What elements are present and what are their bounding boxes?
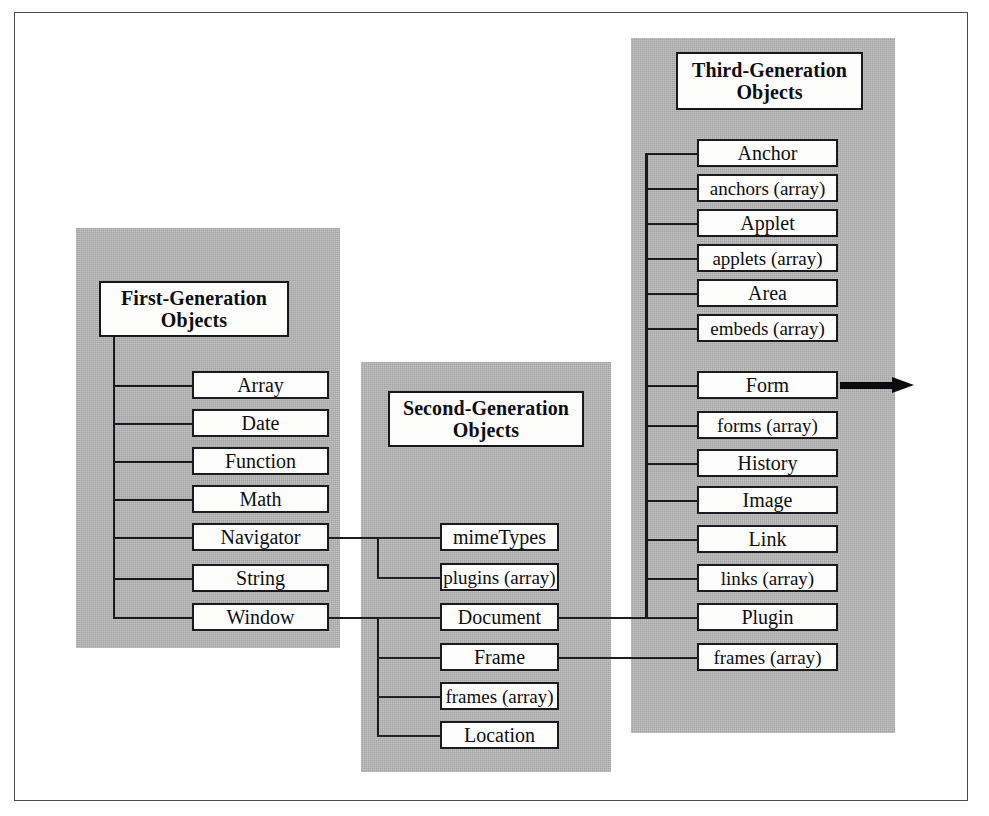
stub-first-4 bbox=[113, 537, 194, 539]
node-embeds-array[interactable]: embeds (array) bbox=[697, 314, 838, 342]
node-plugins-array[interactable]: plugins (array) bbox=[440, 563, 559, 591]
node-label: Date bbox=[242, 413, 280, 433]
node-history[interactable]: History bbox=[697, 449, 838, 477]
node-label: Navigator bbox=[221, 527, 301, 547]
arrow-head bbox=[892, 377, 914, 393]
node-document[interactable]: Document bbox=[440, 603, 559, 631]
node-link[interactable]: Link bbox=[697, 525, 838, 553]
stub-first-5 bbox=[113, 578, 194, 580]
stub-second-4 bbox=[377, 696, 442, 698]
node-label: Image bbox=[743, 490, 793, 510]
stub-third-5 bbox=[645, 328, 697, 330]
stub-first-2 bbox=[113, 461, 194, 463]
title-second-line1: Second-Generation bbox=[403, 397, 569, 419]
node-anchor[interactable]: Anchor bbox=[697, 139, 838, 167]
node-label: Link bbox=[749, 529, 787, 549]
stub-first-1 bbox=[113, 423, 194, 425]
stub-third-10 bbox=[645, 539, 697, 541]
node-label: Applet bbox=[740, 213, 794, 233]
node-label: Document bbox=[458, 607, 541, 627]
node-form[interactable]: Form bbox=[697, 371, 838, 399]
node-frames-array-third[interactable]: frames (array) bbox=[697, 643, 838, 671]
link-document-to-third bbox=[559, 617, 699, 619]
node-links-array[interactable]: links (array) bbox=[697, 564, 838, 592]
stub-third-11 bbox=[645, 578, 697, 580]
node-date[interactable]: Date bbox=[192, 409, 329, 437]
stub-third-9 bbox=[645, 500, 697, 502]
node-label: Window bbox=[226, 607, 294, 627]
node-label: Form bbox=[746, 375, 789, 395]
node-label: embeds (array) bbox=[710, 319, 824, 338]
node-function[interactable]: Function bbox=[192, 447, 329, 475]
stub-third-7 bbox=[645, 425, 697, 427]
node-label: Frame bbox=[474, 647, 525, 667]
node-label: mimeTypes bbox=[453, 527, 546, 547]
title-first-line2: Objects bbox=[161, 309, 227, 331]
node-label: String bbox=[236, 568, 285, 588]
stub-second-3 bbox=[377, 657, 442, 659]
stub-second-2 bbox=[377, 617, 442, 619]
node-string[interactable]: String bbox=[192, 564, 329, 592]
bus-first-generation bbox=[113, 337, 115, 619]
stub-third-1 bbox=[645, 188, 697, 190]
node-applets-array[interactable]: applets (array) bbox=[697, 244, 838, 272]
node-label: frames (array) bbox=[445, 687, 553, 706]
node-mimetypes[interactable]: mimeTypes bbox=[440, 523, 559, 551]
node-window[interactable]: Window bbox=[192, 603, 329, 631]
stub-second-5 bbox=[377, 735, 442, 737]
stub-third-6 bbox=[645, 385, 697, 387]
node-array[interactable]: Array bbox=[192, 371, 329, 399]
link-window-to-second bbox=[329, 617, 379, 619]
node-label: links (array) bbox=[721, 569, 814, 588]
title-second-generation: Second-Generation Objects bbox=[388, 391, 584, 447]
title-first-line1: First-Generation bbox=[121, 287, 267, 309]
node-label: Area bbox=[748, 283, 787, 303]
node-image[interactable]: Image bbox=[697, 486, 838, 514]
title-second-line2: Objects bbox=[453, 419, 519, 441]
stub-first-0 bbox=[113, 385, 194, 387]
stub-third-3 bbox=[645, 258, 697, 260]
title-third-line2: Objects bbox=[736, 81, 802, 103]
stub-second-0 bbox=[377, 537, 442, 539]
node-label: Location bbox=[464, 725, 535, 745]
node-label: History bbox=[738, 453, 798, 473]
node-anchors-array[interactable]: anchors (array) bbox=[697, 174, 838, 202]
stub-third-4 bbox=[645, 293, 697, 295]
node-plugin[interactable]: Plugin bbox=[697, 603, 838, 631]
link-frame-to-frames-array bbox=[559, 657, 699, 659]
node-area[interactable]: Area bbox=[697, 279, 838, 307]
title-first-generation: First-Generation Objects bbox=[99, 281, 289, 337]
node-frame[interactable]: Frame bbox=[440, 643, 559, 671]
node-math[interactable]: Math bbox=[192, 485, 329, 513]
form-continuation-arrow-icon bbox=[840, 377, 920, 393]
stub-first-3 bbox=[113, 499, 194, 501]
node-label: Array bbox=[237, 375, 284, 395]
stub-first-6 bbox=[113, 617, 194, 619]
node-label: Math bbox=[239, 489, 281, 509]
link-navigator-to-second bbox=[329, 537, 379, 539]
node-label: Function bbox=[225, 451, 296, 471]
node-label: anchors (array) bbox=[710, 179, 826, 198]
stub-third-0 bbox=[645, 153, 697, 155]
title-third-generation: Third-Generation Objects bbox=[676, 52, 863, 110]
node-label: frames (array) bbox=[713, 648, 821, 667]
node-applet[interactable]: Applet bbox=[697, 209, 838, 237]
stub-third-8 bbox=[645, 463, 697, 465]
node-navigator[interactable]: Navigator bbox=[192, 523, 329, 551]
node-label: applets (array) bbox=[712, 249, 822, 268]
stub-third-2 bbox=[645, 223, 697, 225]
stub-second-1 bbox=[377, 577, 442, 579]
node-frames-array-second[interactable]: frames (array) bbox=[440, 682, 559, 710]
node-location[interactable]: Location bbox=[440, 721, 559, 749]
title-third-line1: Third-Generation bbox=[692, 59, 847, 81]
node-label: plugins (array) bbox=[443, 568, 555, 587]
node-label: Plugin bbox=[741, 607, 793, 627]
bus-navigator-group bbox=[377, 537, 379, 579]
diagram-canvas: First-Generation Objects Array Date Func… bbox=[0, 0, 989, 816]
arrow-shaft bbox=[840, 382, 896, 389]
bus-window-group bbox=[377, 617, 379, 736]
node-label: forms (array) bbox=[717, 416, 818, 435]
node-forms-array[interactable]: forms (array) bbox=[697, 411, 838, 439]
node-label: Anchor bbox=[738, 143, 798, 163]
